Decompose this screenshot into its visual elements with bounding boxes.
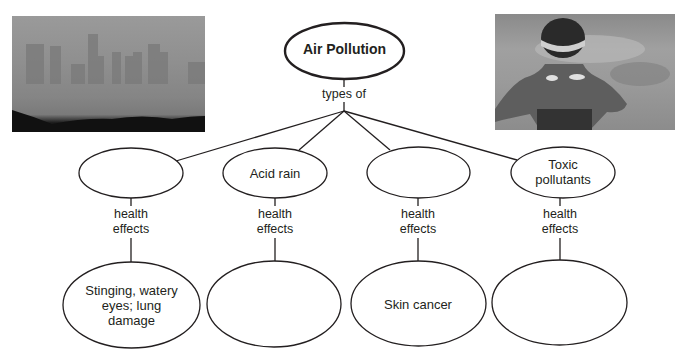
health-effects-label-4: health effects [530, 207, 590, 237]
health-effects-label-2: health effects [245, 207, 305, 237]
root-node-label: Air Pollution [285, 42, 404, 57]
type-node-toxic-pollutants: Toxic pollutants [527, 157, 599, 187]
effect-node-skin-cancer: Skin cancer [364, 297, 472, 312]
health-effects-label-3: health effects [388, 207, 448, 237]
types-of-label: types of [309, 87, 379, 102]
type-node-acid-rain: Acid rain [224, 166, 326, 181]
effect-node-stinging-eyes: Stinging, watery eyes; lung damage [84, 283, 179, 328]
health-effects-label-1: health effects [101, 207, 161, 237]
